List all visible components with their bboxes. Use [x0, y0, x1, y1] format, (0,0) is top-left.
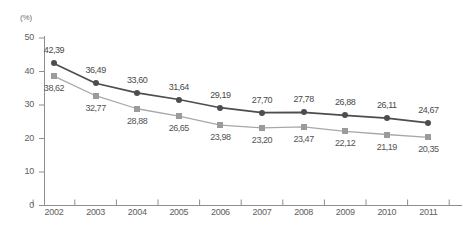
y-tick-label-30: 30: [8, 99, 34, 109]
x-tick-label-2003: 2003: [73, 207, 119, 217]
x-tick-label-2006: 2006: [197, 207, 243, 217]
data-label-series-light-2005: 26,65: [156, 123, 202, 133]
marker-series-dark-2007: [259, 110, 265, 116]
x-tick-label-2010: 2010: [364, 207, 410, 217]
y-tick-label-50: 50: [8, 32, 34, 42]
marker-series-light-2005: [176, 113, 182, 119]
x-tick-label-2004: 2004: [114, 207, 160, 217]
y-tick-label-20: 20: [8, 133, 34, 143]
data-label-series-light-2007: 23,20: [239, 135, 285, 145]
y-axis-ticks: [39, 38, 45, 206]
y-tick-label-10: 10: [8, 166, 34, 176]
marker-series-light-2011: [425, 134, 431, 140]
line-chart: (%) 50403020100 200220032004200520062007…: [0, 0, 471, 252]
data-label-series-light-2008: 23,47: [281, 134, 327, 144]
marker-series-light-2003: [93, 93, 99, 99]
data-label-series-light-2006: 23,98: [197, 132, 243, 142]
data-label-series-light-2009: 22,12: [322, 138, 368, 148]
marker-series-light-2010: [384, 132, 390, 138]
data-label-series-dark-2003: 36,49: [73, 65, 119, 75]
data-label-series-dark-2004: 33,60: [114, 75, 160, 85]
x-tick-label-2002: 2002: [31, 207, 77, 217]
marker-series-light-2006: [217, 122, 223, 128]
data-label-series-dark-2008: 27,78: [281, 94, 327, 104]
y-tick-label-40: 40: [8, 66, 34, 76]
marker-series-light-2007: [259, 125, 265, 131]
x-tick-label-2009: 2009: [322, 207, 368, 217]
x-tick-label-2011: 2011: [405, 207, 451, 217]
data-label-series-light-2010: 21,19: [364, 142, 410, 152]
data-label-series-dark-2006: 29,19: [197, 90, 243, 100]
marker-series-light-2004: [134, 106, 140, 112]
data-label-series-light-2002: 38,62: [31, 83, 77, 93]
marker-series-dark-2005: [176, 97, 182, 103]
marker-series-light-2002: [51, 73, 57, 79]
marker-series-dark-2003: [93, 80, 99, 86]
data-label-series-dark-2009: 26,88: [322, 97, 368, 107]
data-label-series-light-2003: 32,77: [73, 103, 119, 113]
data-label-series-dark-2005: 31,64: [156, 82, 202, 92]
data-label-series-dark-2007: 27,70: [239, 95, 285, 105]
x-tick-label-2005: 2005: [156, 207, 202, 217]
marker-series-light-2009: [342, 128, 348, 134]
data-label-series-light-2011: 20,35: [405, 144, 451, 154]
marker-series-dark-2010: [384, 115, 390, 121]
x-tick-label-2008: 2008: [281, 207, 327, 217]
data-label-series-light-2004: 28,88: [114, 116, 160, 126]
axis-lines: [45, 36, 463, 206]
data-label-series-dark-2010: 26,11: [364, 100, 410, 110]
data-label-series-dark-2011: 24,67: [405, 105, 451, 115]
x-axis-ticks: [33, 200, 449, 206]
x-tick-label-2007: 2007: [239, 207, 285, 217]
marker-series-light-2008: [301, 124, 307, 130]
data-label-series-dark-2002: 42,39: [31, 45, 77, 55]
